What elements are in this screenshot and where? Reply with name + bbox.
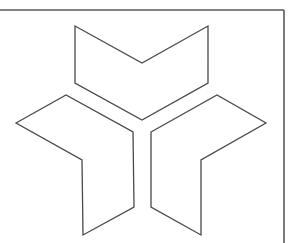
right-chevron-shape bbox=[151, 95, 266, 235]
chevron-tiling-diagram bbox=[0, 0, 293, 243]
left-chevron-shape bbox=[16, 95, 134, 235]
top-chevron-shape bbox=[75, 26, 208, 120]
